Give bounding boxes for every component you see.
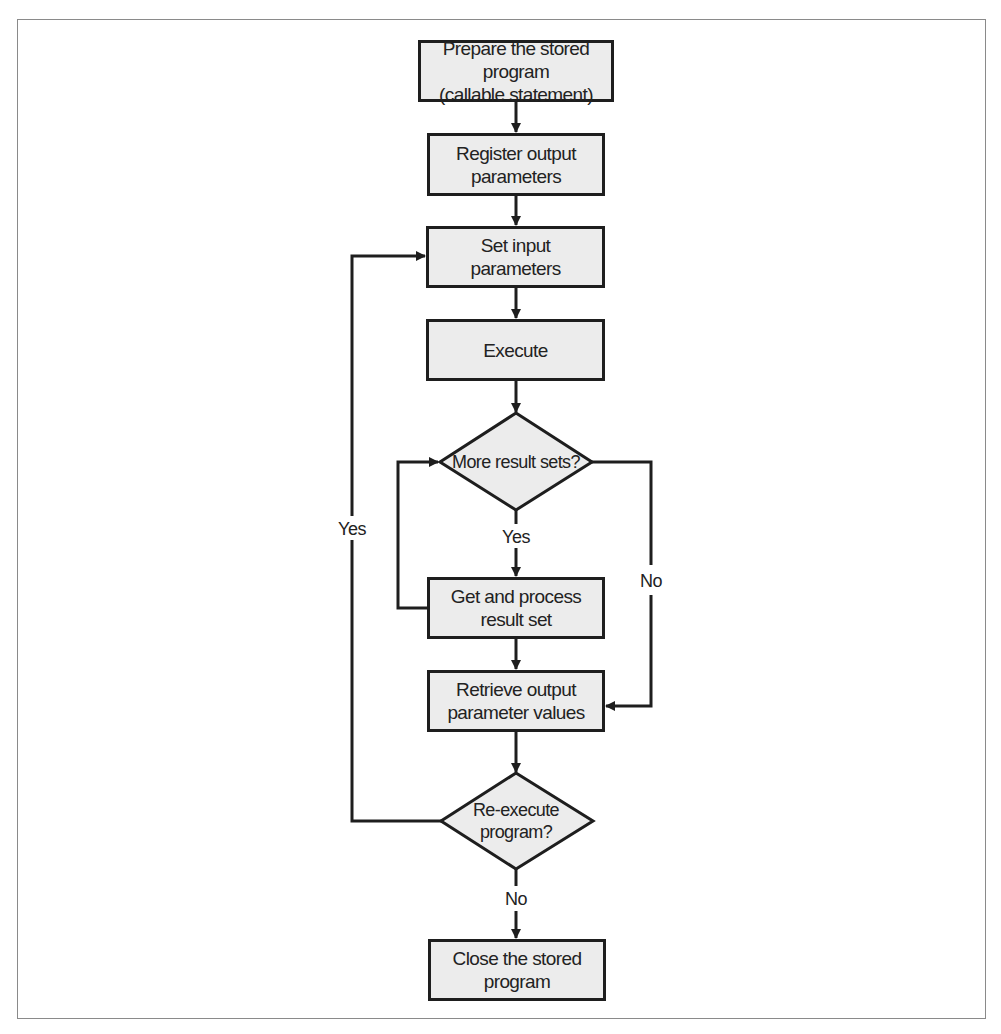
label-yes-reexecute: Yes <box>334 518 370 540</box>
node-close: Close the stored program <box>428 939 606 1001</box>
node-execute: Execute <box>426 319 605 381</box>
node-set-input: Set input parameters <box>426 226 605 288</box>
arrow-no-retrieve <box>606 595 651 706</box>
node-prepare: Prepare the stored program (callable sta… <box>418 40 614 102</box>
decision-more-results: More result sets? <box>452 450 580 474</box>
label-no-reexecute: No <box>502 888 530 910</box>
decision-reexecute: Re-execute program? <box>466 798 566 844</box>
arrow-yes-setinput <box>352 256 425 516</box>
node-get-process: Get and process result set <box>427 577 605 639</box>
label-yes-more-results: Yes <box>500 526 532 548</box>
label-no-more-results: No <box>637 570 665 592</box>
node-retrieve-output: Retrieve output parameter values <box>427 670 605 732</box>
node-register-output: Register output parameters <box>427 133 605 196</box>
